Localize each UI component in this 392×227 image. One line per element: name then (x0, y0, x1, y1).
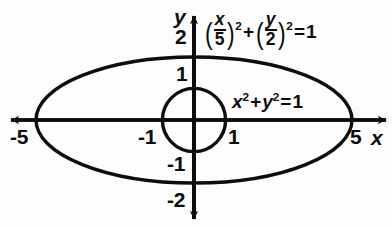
ellipse-eq-fraction-y: y2 (265, 11, 277, 49)
circle-eq-rhs: 1 (292, 91, 303, 112)
ellipse-eq-numerator-y: y (265, 11, 277, 29)
ellipse-eq-exponent-1: 2 (235, 19, 242, 32)
y-tick-label-pos1: 1 (176, 63, 187, 84)
ellipse-eq-exponent-2: 2 (286, 19, 293, 32)
x-tick-label-neg5: -5 (10, 126, 28, 147)
math-figure: y x -5 -1 1 5 2 1 -1 -2 (x5)2+(y2)2=1 x2… (0, 0, 392, 227)
ellipse-eq-rhs: 1 (306, 21, 317, 42)
circle-eq-var-y: y (262, 91, 273, 112)
y-tick-label-neg2: -2 (167, 189, 185, 210)
circle-eq-equals: = (279, 91, 292, 112)
ellipse-equation-label: (x5)2+(y2)2=1 (204, 11, 317, 51)
ellipse-eq-close-paren: ) (227, 17, 235, 51)
ellipse-eq-equals: = (293, 21, 306, 42)
y-tick-label-neg1: -1 (167, 153, 185, 174)
ellipse-eq-denominator-x: 5 (214, 29, 226, 49)
circle-eq-plus: + (249, 91, 262, 112)
ellipse-eq-close-paren-2: ) (278, 17, 286, 51)
circle-equation-label: x2+y2=1 (232, 91, 303, 113)
y-axis-label: y (174, 6, 186, 27)
x-tick-label-pos5: 5 (350, 126, 361, 147)
y-tick-label-pos2: 2 (175, 26, 186, 47)
x-tick-label-pos1: 1 (228, 126, 239, 147)
ellipse-eq-numerator-x: x (214, 11, 226, 29)
ellipse-eq-fraction-x: x5 (214, 11, 226, 49)
coordinate-plane-svg (0, 0, 392, 227)
x-tick-label-neg1: -1 (138, 126, 156, 147)
x-axis-label: x (371, 127, 383, 148)
ellipse-eq-denominator-y: 2 (265, 29, 277, 49)
ellipse-eq-plus: + (242, 21, 255, 42)
ellipse-eq-open-paren-2: ( (256, 17, 264, 51)
circle-eq-var-x: x (232, 91, 243, 112)
ellipse-eq-open-paren: ( (205, 17, 213, 51)
